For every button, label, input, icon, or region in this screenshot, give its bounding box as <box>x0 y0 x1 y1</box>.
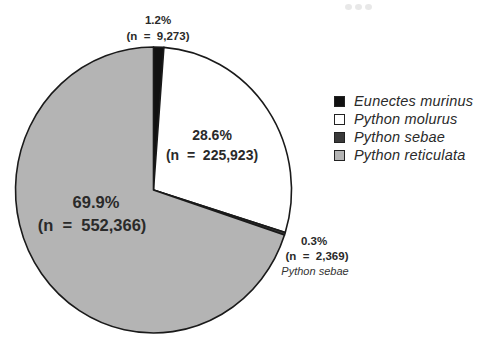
label-eunectes-n: (n = 9,273) <box>127 30 190 42</box>
legend-item: Python sebae <box>334 128 473 146</box>
legend-swatch-sebae <box>334 132 345 143</box>
label-molurus-pct: 28.6% <box>192 127 232 143</box>
pie-chart: 1.2% (n = 9,273) 28.6% (n = 225,923) 0.3… <box>0 0 487 349</box>
legend-swatch-molurus <box>334 114 345 125</box>
label-reticulata-n: (n = 552,366) <box>38 216 147 234</box>
legend-item: Python reticulata <box>334 146 473 164</box>
legend-label: Python sebae <box>354 129 445 145</box>
legend-label: Python reticulata <box>354 147 465 163</box>
legend: Eunectes murinus Python molurus Python s… <box>334 92 473 164</box>
label-molurus-n: (n = 225,923) <box>166 147 258 163</box>
label-eunectes-pct: 1.2% <box>145 14 171 26</box>
legend-swatch-eunectes <box>334 96 345 107</box>
label-sebae-name: Python sebae <box>281 265 348 277</box>
legend-swatch-reticulata <box>334 150 345 161</box>
legend-label: Eunectes murinus <box>354 93 473 109</box>
legend-label: Python molurus <box>354 111 458 127</box>
label-sebae-n: (n = 2,369) <box>286 250 349 262</box>
legend-item: Eunectes murinus <box>334 92 473 110</box>
label-sebae-pct: 0.3% <box>301 235 327 247</box>
label-reticulata-pct: 69.9% <box>73 193 120 211</box>
legend-item: Python molurus <box>334 110 473 128</box>
